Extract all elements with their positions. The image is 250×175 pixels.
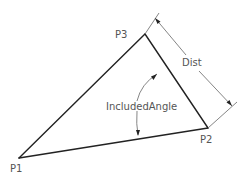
- extension-line-p3: [145, 13, 159, 34]
- point-label-p1: P1: [10, 163, 22, 174]
- point-label-p3: P3: [115, 29, 127, 40]
- dist-label: Dist: [182, 57, 202, 68]
- extension-line-p2: [208, 102, 237, 128]
- angle-arrow-top-icon: [151, 74, 157, 80]
- angle-arrow-bottom-icon: [136, 130, 140, 136]
- edge-p1-p2: [19, 128, 208, 158]
- dist-dimension-line-lower: [199, 71, 232, 106]
- edge-p3-p2: [145, 34, 208, 128]
- included-angle-label: IncludedAngle: [106, 101, 177, 112]
- edge-p1-p3: [19, 34, 145, 158]
- point-label-p2: P2: [200, 134, 212, 145]
- triangle-diagram: Dist IncludedAngle P3 P2 P1: [0, 0, 250, 175]
- dist-dimension-line-upper: [155, 18, 186, 55]
